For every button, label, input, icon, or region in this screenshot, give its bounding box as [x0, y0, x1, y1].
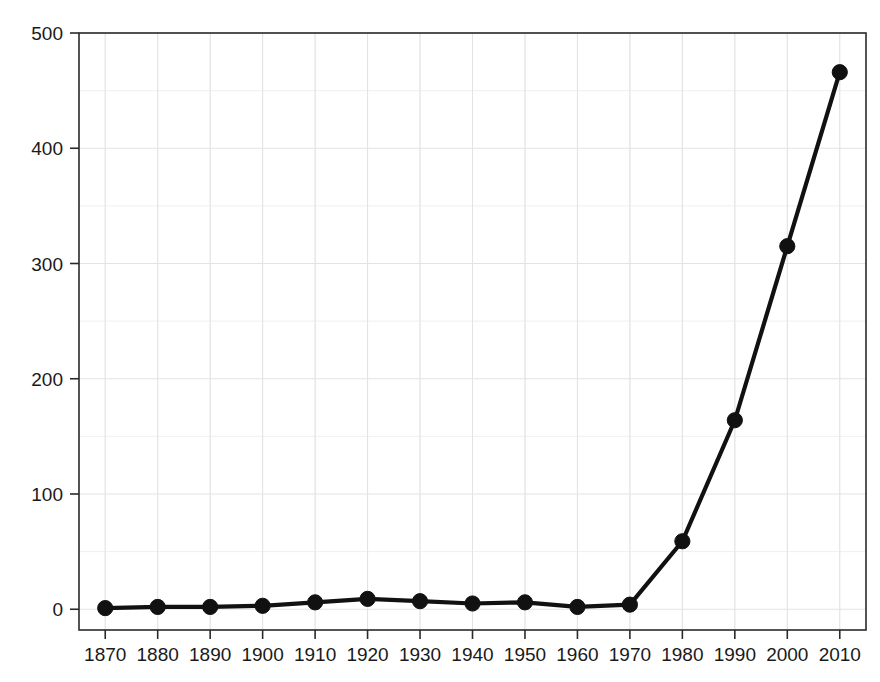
y-tick-label: 100: [31, 484, 63, 505]
data-point-marker: [780, 239, 795, 254]
y-tick-label: 0: [52, 599, 63, 620]
data-point-marker: [412, 594, 427, 609]
data-point-marker: [203, 599, 218, 614]
x-tick-label: 1910: [294, 644, 336, 665]
x-tick-label: 2000: [766, 644, 808, 665]
y-tick-label: 200: [31, 369, 63, 390]
x-tick-label: 1890: [189, 644, 231, 665]
y-tick-label: 300: [31, 254, 63, 275]
line-chart: 0100200300400500 18701880189019001910192…: [0, 0, 880, 682]
data-point-marker: [727, 413, 742, 428]
data-point-marker: [570, 599, 585, 614]
x-tick-label: 1900: [241, 644, 283, 665]
y-tick-label: 400: [31, 138, 63, 159]
x-tick-label: 1950: [504, 644, 546, 665]
data-point-marker: [465, 596, 480, 611]
data-point-marker: [360, 591, 375, 606]
x-tick-label: 1870: [84, 644, 126, 665]
data-point-marker: [517, 595, 532, 610]
x-tick-label: 1990: [714, 644, 756, 665]
x-axis-tick-labels: 1870188018901900191019201930194019501960…: [84, 644, 861, 665]
x-tick-label: 1880: [137, 644, 179, 665]
data-point-marker: [832, 65, 847, 80]
data-point-marker: [255, 598, 270, 613]
x-tick-label: 1930: [399, 644, 441, 665]
data-point-marker: [98, 601, 113, 616]
x-tick-label: 1940: [451, 644, 493, 665]
data-point-marker: [150, 599, 165, 614]
data-point-marker: [675, 534, 690, 549]
x-tick-label: 1960: [556, 644, 598, 665]
y-tick-label: 500: [31, 23, 63, 44]
data-point-marker: [308, 595, 323, 610]
x-tick-label: 1980: [661, 644, 703, 665]
chart-container: 0100200300400500 18701880189019001910192…: [0, 0, 880, 682]
x-tick-label: 2010: [819, 644, 861, 665]
x-tick-label: 1920: [346, 644, 388, 665]
x-tick-label: 1970: [609, 644, 651, 665]
chart-background: [0, 0, 880, 682]
data-point-marker: [622, 597, 637, 612]
